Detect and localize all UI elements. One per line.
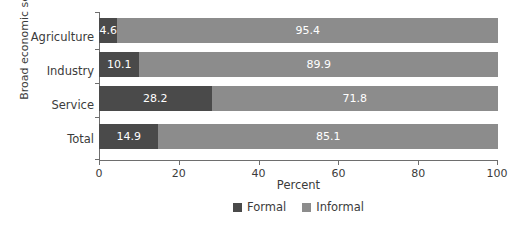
bar-label-informal: 71.8: [212, 86, 499, 111]
bar-segment-informal: 71.8: [212, 86, 499, 111]
x-axis-tick: [338, 161, 339, 165]
legend-item-informal: Informal: [302, 200, 364, 214]
bar-segment-formal: 4.6: [99, 18, 117, 43]
bar-label-informal: 89.9: [139, 52, 498, 77]
y-tick-label-industry: Industry: [22, 65, 94, 77]
y-axis-tick: [95, 12, 99, 13]
x-axis-title: Percent: [99, 178, 498, 192]
legend-swatch-informal-icon: [302, 203, 311, 212]
bar-row-industry: 10.1 89.9: [99, 52, 498, 77]
y-axis-tick: [95, 83, 99, 84]
legend-label-informal: Informal: [316, 200, 364, 214]
bar-row-total: 14.9 85.1: [99, 124, 498, 149]
y-axis-tick: [95, 117, 99, 118]
bar-label-formal: 4.6: [99, 18, 117, 43]
stacked-bar-chart: Broad economic sector Agriculture Indust…: [0, 0, 522, 228]
y-axis-tick-labels: Agriculture Industry Service Total: [22, 12, 94, 160]
y-tick-label-agriculture: Agriculture: [22, 31, 94, 43]
bar-label-formal: 14.9: [99, 124, 158, 149]
bar-label-formal: 28.2: [99, 86, 212, 111]
chart-legend: Formal Informal: [99, 200, 498, 214]
x-axis-tick: [497, 161, 498, 165]
y-tick-label-service: Service: [22, 99, 94, 111]
bar-label-informal: 95.4: [117, 18, 498, 43]
bar-row-service: 28.2 71.8: [99, 86, 498, 111]
bar-segment-informal: 89.9: [139, 52, 498, 77]
bar-label-informal: 85.1: [158, 124, 498, 149]
plot-area: 4.6 95.4 10.1 89.9 28.2 71.8 14.9: [99, 12, 498, 160]
legend-item-formal: Formal: [233, 200, 286, 214]
y-axis-tick: [95, 49, 99, 50]
legend-swatch-formal-icon: [233, 203, 242, 212]
bar-segment-formal: 10.1: [99, 52, 139, 77]
x-axis-tick: [418, 161, 419, 165]
bar-segment-formal: 28.2: [99, 86, 212, 111]
bar-row-agriculture: 4.6 95.4: [99, 18, 498, 43]
x-axis-line: [99, 160, 498, 161]
x-axis-tick: [99, 161, 100, 165]
x-axis-tick: [179, 161, 180, 165]
y-axis-tick: [95, 159, 99, 160]
bar-segment-informal: 95.4: [117, 18, 498, 43]
bar-segment-informal: 85.1: [158, 124, 498, 149]
legend-label-formal: Formal: [247, 200, 286, 214]
bar-segment-formal: 14.9: [99, 124, 158, 149]
bar-label-formal: 10.1: [99, 52, 139, 77]
y-tick-label-total: Total: [22, 133, 94, 145]
x-axis-tick: [259, 161, 260, 165]
